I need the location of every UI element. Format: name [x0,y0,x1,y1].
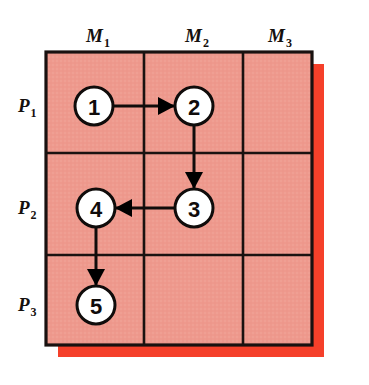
row-label-P2-base: P [17,197,30,218]
row-label-P3-base: P [17,294,30,315]
task-node-3[interactable]: 3 [175,189,213,227]
row-label-P1: P1 [17,95,37,120]
task-node-label: 3 [188,197,200,222]
task-node-5[interactable]: 5 [77,286,115,324]
column-label-M3-sub: 3 [286,36,292,50]
task-node-2[interactable]: 2 [175,87,213,125]
column-label-M3: M3 [267,25,292,50]
task-node-4[interactable]: 4 [77,189,115,227]
column-label-M1: M1 [85,25,110,50]
row-label-P3-sub: 3 [31,305,37,319]
task-node-label: 5 [90,294,102,319]
column-label-M2-sub: 2 [203,36,209,50]
task-node-label: 4 [90,197,103,222]
column-label-M1-sub: 1 [104,36,110,50]
task-node-1[interactable]: 1 [75,87,113,125]
column-labels: M1 M2 M3 [85,25,292,50]
column-label-M2: M2 [184,25,209,50]
row-label-P1-sub: 1 [31,106,37,120]
column-label-M1-base: M [85,25,104,46]
row-label-P2: P2 [17,197,37,222]
machine-process-grid-diagram: M1 M2 M3 P1 P2 P3 [0,0,369,385]
row-label-P2-sub: 2 [31,208,37,222]
task-node-label: 1 [88,95,100,120]
task-node-label: 2 [188,95,200,120]
column-label-M2-base: M [184,25,203,46]
row-label-P1-base: P [17,95,30,116]
column-label-M3-base: M [267,25,286,46]
figure-root: M1 M2 M3 P1 P2 P3 [0,0,369,385]
row-labels: P1 P2 P3 [17,95,37,319]
row-label-P3: P3 [17,294,37,319]
